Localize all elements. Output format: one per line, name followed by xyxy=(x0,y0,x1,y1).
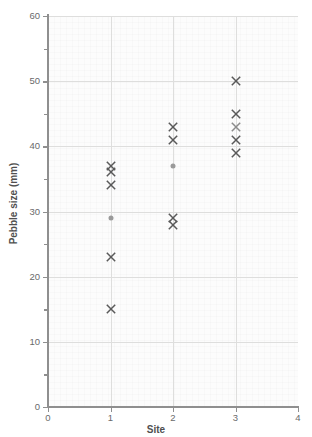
x-tick-label-2: 2 xyxy=(163,412,183,423)
y-minor-tick-5 xyxy=(44,374,48,375)
y-tick-label-10: 10 xyxy=(16,336,40,347)
y-tick-10 xyxy=(43,342,48,343)
gridline-x-2 xyxy=(173,16,174,407)
y-tick-label-50: 50 xyxy=(16,75,40,86)
y-tick-label-40: 40 xyxy=(16,140,40,151)
y-axis-title: Pebble size (mm) xyxy=(8,139,19,269)
y-minor-tick-35 xyxy=(44,179,48,180)
y-tick-label-60: 60 xyxy=(16,10,40,21)
pebble-size-scatter-chart: 0102030405060 01234 Site Pebble size (mm… xyxy=(0,0,312,437)
x-tick-label-0: 0 xyxy=(38,412,58,423)
x-tick-label-4: 4 xyxy=(288,412,308,423)
data-point-dot xyxy=(108,216,113,221)
y-minor-tick-55 xyxy=(44,49,48,50)
y-tick-label-0: 0 xyxy=(16,401,40,412)
y-tick-40 xyxy=(43,146,48,147)
y-tick-20 xyxy=(43,277,48,278)
gridline-x-3 xyxy=(236,16,237,407)
x-tick-label-1: 1 xyxy=(101,412,121,423)
y-tick-30 xyxy=(43,212,48,213)
gridline-x-1 xyxy=(111,16,112,407)
y-minor-tick-45 xyxy=(44,114,48,115)
plot-area xyxy=(48,16,298,407)
y-tick-60 xyxy=(43,16,48,17)
y-tick-label-20: 20 xyxy=(16,271,40,282)
y-minor-tick-25 xyxy=(44,244,48,245)
y-minor-tick-15 xyxy=(44,309,48,310)
x-tick-label-3: 3 xyxy=(226,412,246,423)
x-axis-title: Site xyxy=(0,424,312,435)
data-point-dot xyxy=(171,163,176,168)
y-tick-label-30: 30 xyxy=(16,206,40,217)
y-tick-50 xyxy=(43,81,48,82)
